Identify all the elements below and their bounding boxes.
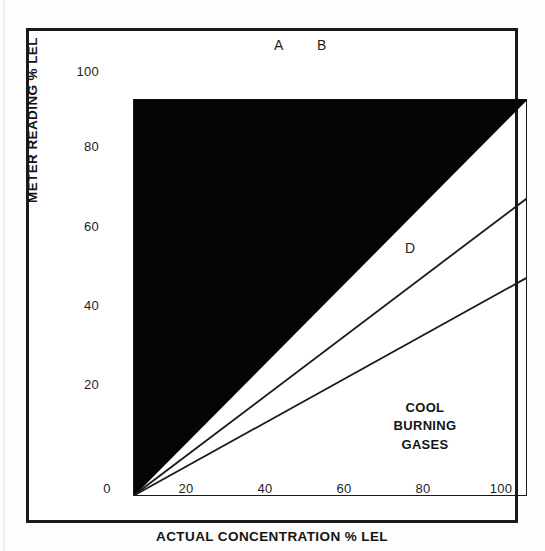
y-tick-60: 60	[47, 219, 99, 234]
region-annotation-line-2: BURNING	[365, 417, 485, 435]
region-annotation-line-1: COOL	[365, 399, 485, 417]
y-tick-100: 100	[47, 64, 99, 79]
region-annotation: COOL BURNING GASES	[365, 399, 485, 454]
curve-label-a: A	[274, 37, 283, 53]
curve-label-b: B	[317, 37, 326, 53]
x-axis-title: ACTUAL CONCENTRATION % LEL	[29, 529, 515, 544]
figure-page: A B C D 100 80 60 40 20 0 20 40 60 80 10…	[0, 0, 545, 551]
plot-area: COOL BURNING GASES	[133, 99, 527, 496]
x-tick-0: 0	[103, 481, 111, 496]
region-annotation-line-3: GASES	[365, 436, 485, 454]
y-axis-title: METER READING % LEL	[25, 37, 40, 203]
y-tick-20: 20	[47, 377, 99, 392]
figure-frame: A B C D 100 80 60 40 20 0 20 40 60 80 10…	[26, 28, 518, 523]
y-tick-80: 80	[47, 139, 99, 154]
scan-edge-artifact	[3, 0, 8, 551]
y-tick-40: 40	[47, 298, 99, 313]
